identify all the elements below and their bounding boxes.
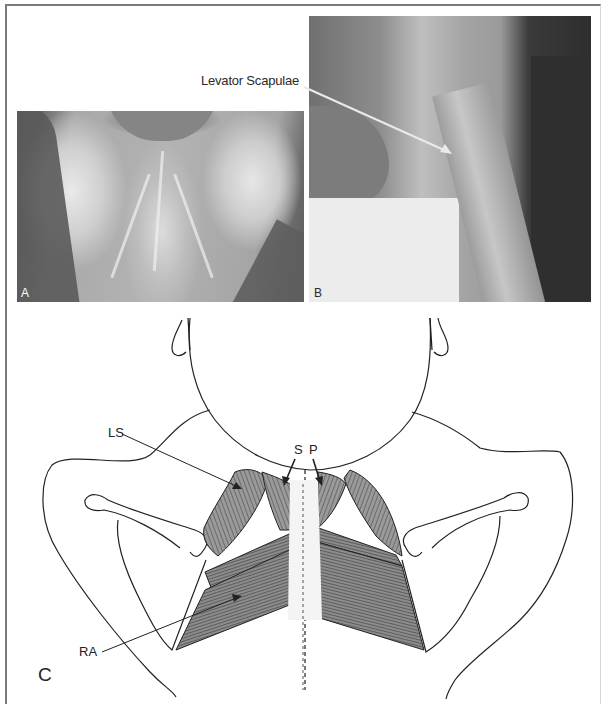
panel-label-c: C (38, 664, 52, 686)
panel-label-b: B (314, 286, 322, 300)
anatomy-illustration (0, 300, 604, 699)
skin-fold (309, 106, 389, 206)
label-levator-scapulae: LS (108, 425, 124, 440)
photo-panel-a: A (17, 111, 304, 302)
photo-panel-b: B (309, 16, 591, 302)
dark-background (531, 56, 591, 302)
fascia-streak (110, 174, 150, 278)
levator-scapulae-callout: Levator Scapulae (201, 73, 299, 88)
label-p: P (309, 442, 318, 457)
midline-streak (153, 151, 164, 271)
label-rhomboid: RA (79, 644, 97, 659)
neck-region (107, 111, 217, 141)
panel-label-a: A (21, 286, 29, 300)
label-s: S (294, 442, 303, 457)
fascia-streak (173, 174, 213, 278)
drape-right (221, 219, 304, 302)
drape-white (309, 198, 459, 302)
drape-left (17, 111, 83, 302)
